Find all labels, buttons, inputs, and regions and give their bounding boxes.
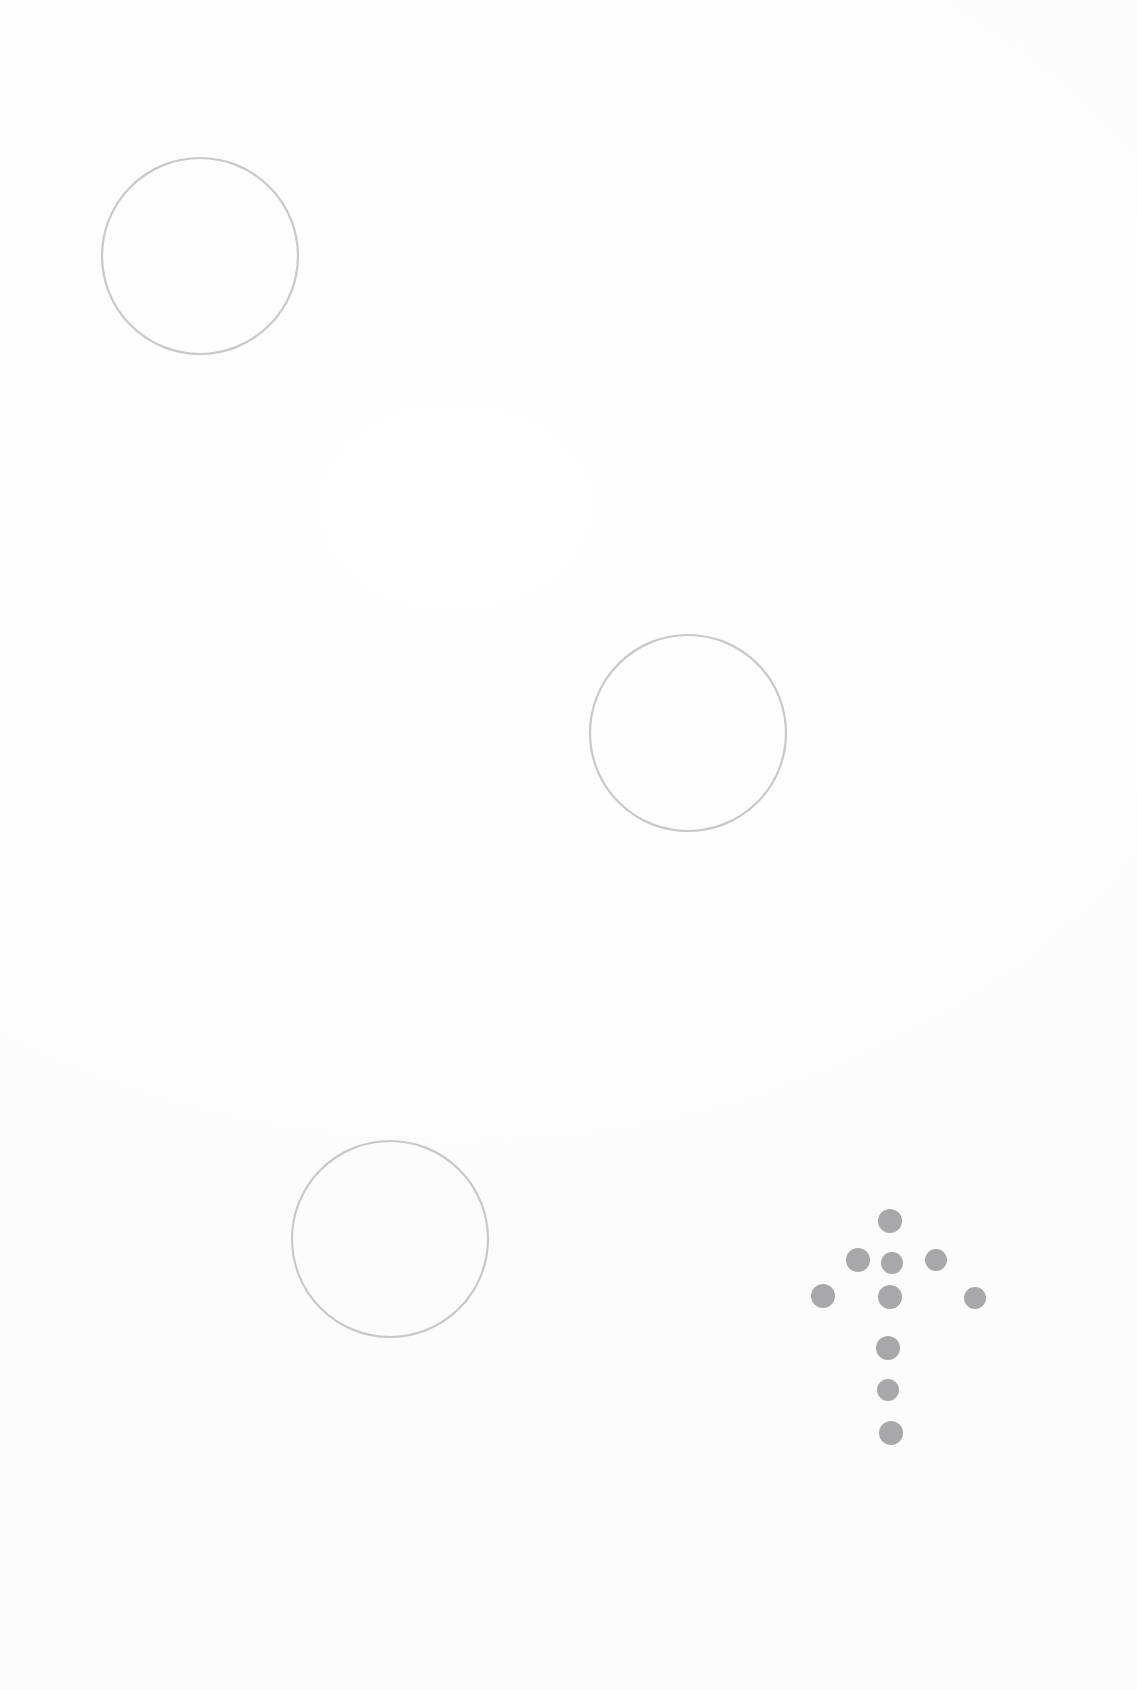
page-canvas: Three light gray outlined circles and a … [0,0,1137,1690]
dot-arrow-group [811,1209,986,1445]
dot-shaft-upper [876,1336,900,1360]
circle-bottom-left [292,1141,488,1337]
circle-top-left [102,158,298,354]
dot-wing-right [964,1287,986,1309]
dot-arrow-tip [878,1209,902,1233]
circle-middle-right [590,635,786,831]
figure-layer [0,0,1137,1690]
drawing-canvas [0,0,1137,1690]
dot-shaft-bottom [879,1421,903,1445]
dot-shaft-top [878,1285,902,1309]
dot-shaft-lower [877,1379,899,1401]
dot-wing-left [811,1284,835,1308]
dot-head-right [925,1249,947,1271]
outlined-circles-group [102,158,786,1337]
dot-head-left [846,1248,870,1272]
dot-head-center [881,1252,903,1274]
